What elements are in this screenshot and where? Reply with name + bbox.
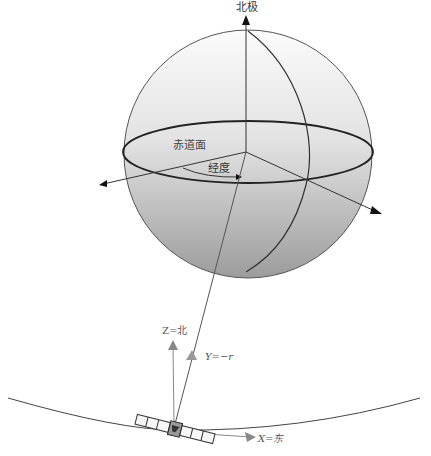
earth-sphere [124, 30, 372, 278]
left-arrow-icon [99, 180, 107, 187]
x-axis-label: X=东 [258, 434, 284, 444]
equatorial-plane-label: 赤道面 [173, 140, 206, 151]
right-arrow-icon [370, 206, 382, 214]
satellite-icon [134, 413, 215, 446]
x-arrow-icon [245, 432, 256, 442]
orbit-arc [8, 398, 420, 430]
earth-satellite-diagram [0, 0, 431, 456]
longitude-label: 经度 [208, 163, 230, 174]
north-arrow-icon [242, 15, 250, 25]
z-arrow-icon [168, 340, 178, 350]
y-axis-label: Y=−r [205, 352, 233, 362]
y-arrow-icon [186, 350, 197, 360]
z-axis-line [173, 346, 174, 424]
north-pole-label: 北极 [236, 2, 258, 13]
z-axis-label: Z=北 [162, 326, 187, 336]
